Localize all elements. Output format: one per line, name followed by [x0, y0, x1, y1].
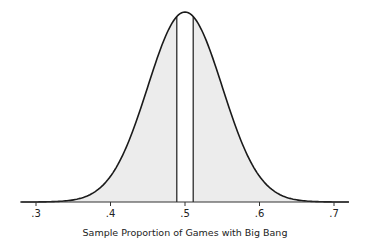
x-tick-label: .7: [329, 208, 339, 219]
x-tick-label: .4: [106, 208, 116, 219]
x-tick-label: .5: [180, 208, 190, 219]
x-tick-label: .6: [255, 208, 265, 219]
x-axis-label: Sample Proportion of Games with Big Bang: [0, 227, 366, 238]
shaded-left-tail: [21, 17, 177, 202]
x-axis-ticks: [36, 202, 334, 206]
shaded-right-tail: [193, 17, 349, 202]
x-tick-label: .3: [31, 208, 41, 219]
density-curve: [21, 12, 349, 202]
